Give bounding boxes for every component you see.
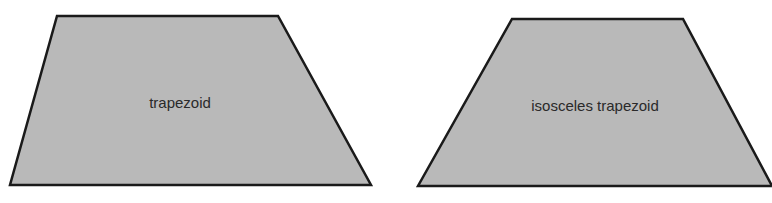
trapezoid-diagram: trapezoid isosceles trapezoid (0, 0, 772, 203)
trapezoid-label: trapezoid (149, 94, 211, 111)
isosceles-trapezoid-label: isosceles trapezoid (531, 97, 659, 114)
